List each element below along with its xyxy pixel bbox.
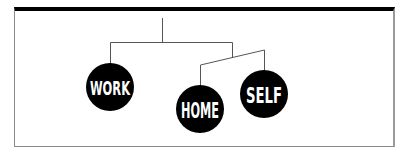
node-work: WORK xyxy=(86,63,134,111)
home-label: HOME xyxy=(181,99,219,123)
self-label: SELF xyxy=(246,83,282,108)
tree-diagram: WORK HOME SELF xyxy=(0,0,407,155)
connector-lines xyxy=(111,18,265,86)
node-self: SELF xyxy=(240,70,288,118)
work-label: WORK xyxy=(90,76,131,100)
node-home: HOME xyxy=(176,85,224,133)
